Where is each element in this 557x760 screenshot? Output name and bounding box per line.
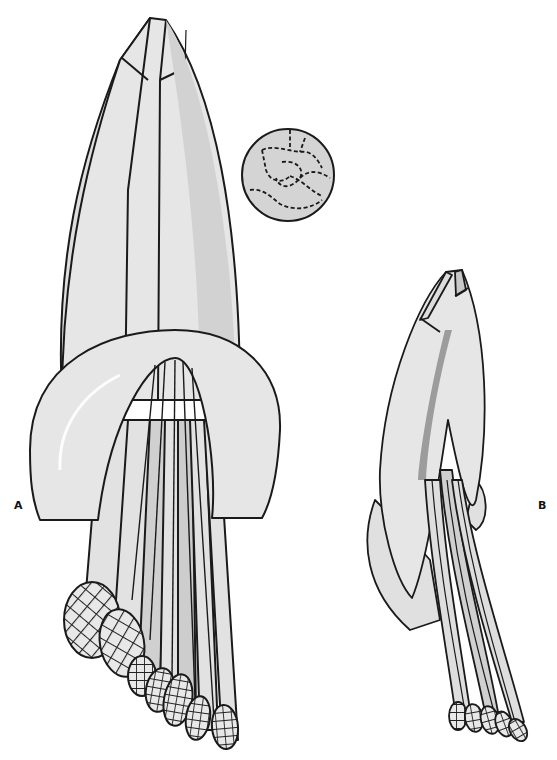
panel-label-b: B <box>538 499 546 512</box>
panel-a-drawing <box>30 18 280 750</box>
panel-b-drawing <box>367 270 531 744</box>
cell-network-inset <box>242 129 334 221</box>
panel-label-a: A <box>14 499 23 512</box>
botanical-illustration <box>0 0 557 760</box>
